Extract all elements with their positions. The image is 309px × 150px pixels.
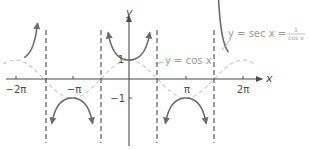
cos-leader-line	[155, 62, 163, 64]
sec-branch-pi-left	[165, 98, 185, 124]
tick-label-neg-pi: −π	[67, 84, 81, 95]
sec-branch-left-upper	[24, 23, 37, 57]
tick-label-pi: π	[184, 84, 190, 95]
tick-label-2pi: 2π	[237, 84, 249, 95]
sec-label-denominator: cos x	[288, 34, 304, 41]
sec-branch-center-right	[129, 32, 150, 60]
cos-annotation: y = cos x	[155, 55, 212, 66]
sec-label-numerator: 1	[294, 26, 298, 33]
sec-branch-pi-right	[186, 98, 206, 124]
cos-label: y = cos x	[165, 55, 212, 66]
secant-graph: x y −2π −π π 2π 1 −1 y = sec x = 1 cos x…	[0, 0, 309, 150]
sec-branch-neg-pi	[52, 98, 72, 124]
y-axis-label: y	[125, 6, 133, 19]
sec-annotation: y = sec x = 1 cos x	[222, 26, 305, 50]
x-axis-label: x	[265, 72, 273, 85]
tick-label-y-1: 1	[118, 54, 124, 65]
tick-label-y-neg1: −1	[110, 93, 125, 104]
sec-branch-neg-pi-right	[72, 98, 92, 124]
tick-label-neg-2pi: −2π	[6, 84, 27, 95]
sec-label: y = sec x =	[228, 28, 286, 39]
